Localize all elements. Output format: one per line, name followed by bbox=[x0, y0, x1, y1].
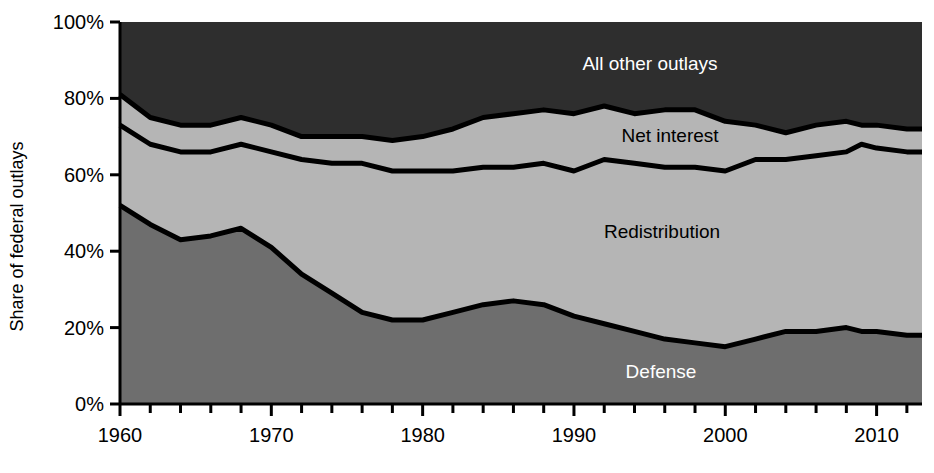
x-axis-tick-label: 1990 bbox=[552, 424, 597, 447]
x-axis-tick-label: 1970 bbox=[249, 424, 294, 447]
y-axis-tick-label: 80% bbox=[28, 87, 104, 110]
x-axis-tick-label: 1980 bbox=[400, 424, 445, 447]
y-axis-tick-label: 60% bbox=[28, 163, 104, 186]
y-axis-tick-label: 0% bbox=[28, 393, 104, 416]
y-axis-tick-label: 100% bbox=[28, 11, 104, 34]
x-axis-tick-label: 2010 bbox=[854, 424, 899, 447]
area-bands bbox=[120, 22, 922, 404]
chart-plot-area bbox=[0, 0, 934, 473]
stacked-area-chart: Share of federal outlays 0%20%40%60%80%1… bbox=[0, 0, 934, 473]
x-axis-tick-label: 2000 bbox=[703, 424, 748, 447]
y-axis-tick-label: 20% bbox=[28, 316, 104, 339]
y-axis-tick-label: 40% bbox=[28, 240, 104, 263]
x-axis-tick-label: 1960 bbox=[98, 424, 143, 447]
